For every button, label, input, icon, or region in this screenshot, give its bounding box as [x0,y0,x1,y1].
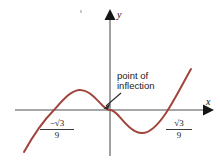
graph-figure: point of inflection y x −√3 9 √3 9 [0,0,220,164]
x-axis-label: x [206,96,210,107]
y-axis-label: y [117,9,121,20]
y-axis-arrowhead [105,9,116,20]
stray-speck [80,10,82,13]
annotation-line-2: inflection [117,81,155,91]
x-tick-label-root-three-over-nine: √3 9 [166,119,192,140]
fraction-denominator: 9 [166,130,192,140]
point-of-inflection-label: point of inflection [117,71,155,91]
x-tick-label-negative-root-three-over-nine: −√3 9 [40,119,74,140]
annotation-leader-line [106,93,121,106]
fraction-denominator: 9 [40,130,74,140]
fraction-numerator: √3 [166,119,192,130]
fraction-numerator: −√3 [40,119,74,130]
